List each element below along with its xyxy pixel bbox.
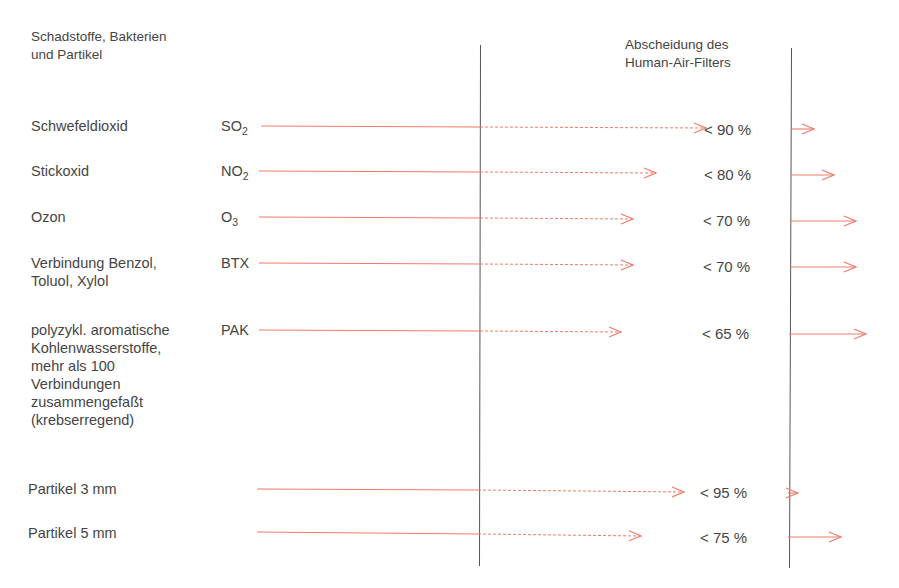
formula-o3: O3	[221, 208, 238, 226]
arrow-o3	[259, 217, 856, 221]
value-pak: < 65 %	[702, 325, 749, 343]
row-name-stickoxid: Stickoxid	[31, 162, 89, 180]
formula-subscript: 2	[242, 125, 248, 137]
formula-base: NO	[221, 163, 243, 179]
filter-input-divider	[480, 45, 481, 566]
row-name-schwefeldioxid: Schwefeldioxid	[31, 117, 128, 135]
arrow-pak	[259, 330, 866, 334]
formula-base: SO	[221, 118, 242, 134]
value-partikel-5mm: < 75 %	[700, 529, 747, 547]
formula-subscript: 3	[232, 216, 238, 228]
filter-output-divider	[790, 48, 792, 568]
row-name-ozon: Ozon	[31, 208, 66, 226]
row-name-partikel-5mm: Partikel 5 mm	[28, 524, 117, 542]
arrow-partikel-5mm	[257, 532, 841, 537]
value-o3: < 70 %	[703, 212, 750, 230]
formula-base: O	[221, 209, 232, 225]
row-name-partikel-3mm: Partikel 3 mm	[28, 480, 117, 498]
formula-pak: PAK	[221, 321, 249, 339]
row-name-btx: Verbindung Benzol, Toluol, Xylol	[31, 254, 157, 290]
value-so2: < 90 %	[704, 121, 751, 139]
value-partikel-3mm: < 95 %	[700, 484, 747, 502]
flow-diagram	[0, 0, 899, 588]
arrow-btx	[259, 263, 856, 267]
formula-so2: SO2	[221, 117, 248, 135]
formula-subscript: 2	[243, 170, 249, 182]
value-no2: < 80 %	[704, 166, 751, 184]
formula-btx: BTX	[221, 254, 249, 272]
value-btx: < 70 %	[703, 258, 750, 276]
row-name-pak: polyzykl. aromatische Kohlenwasserstoffe…	[31, 321, 170, 429]
formula-no2: NO2	[221, 162, 249, 180]
